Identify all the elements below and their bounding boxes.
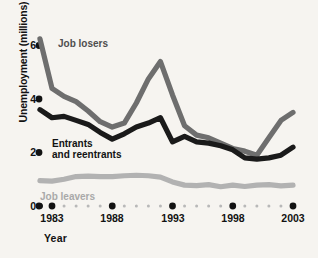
x-axis-minor-tick-dot: [255, 205, 258, 208]
y-tick-label-0: 0: [22, 200, 36, 212]
series-label-job-losers: Job losers: [58, 38, 108, 49]
y-axis-tick-dot: [36, 96, 43, 103]
x-axis-minor-tick-dot: [135, 205, 138, 208]
x-tick-label-1988: 1988: [95, 212, 129, 224]
y-tick-label-2: 2: [22, 146, 36, 158]
x-axis-minor-tick-dot: [63, 205, 66, 208]
x-axis-minor-tick-dot: [147, 205, 150, 208]
x-axis-tick-dots: [37, 203, 296, 210]
x-axis-minor-tick-dot: [75, 205, 78, 208]
x-axis-minor-tick-dot: [123, 205, 126, 208]
x-axis-minor-tick-dot: [87, 205, 90, 208]
x-axis-major-tick-dot: [109, 203, 116, 210]
series-label-entrants-line-1: Entrants: [52, 138, 121, 149]
series-label-job-leavers: Job leavers: [40, 191, 95, 202]
x-tick-label-1983: 1983: [35, 212, 69, 224]
x-axis-major-tick-dot: [49, 203, 56, 210]
y-axis-tick-dot: [36, 203, 43, 210]
unemployment-line-chart: 6 4 2 0 1983 1988 1993 1998 2003 Unemplo…: [0, 0, 318, 258]
series-label-entrants-and-reentrants: Entrantsand reentrants: [52, 138, 121, 160]
x-axis-major-tick-dot: [229, 203, 236, 210]
x-tick-label-2003: 2003: [276, 212, 310, 224]
x-axis-minor-tick-dot: [159, 205, 162, 208]
series-label-entrants-line-2: and reentrants: [52, 149, 121, 160]
x-axis-minor-tick-dot: [183, 205, 186, 208]
x-axis-minor-tick-dot: [207, 205, 210, 208]
x-axis-minor-tick-dot: [267, 205, 270, 208]
x-axis-minor-tick-dot: [279, 205, 282, 208]
x-axis-minor-tick-dot: [243, 205, 246, 208]
x-axis-minor-tick-dot: [195, 205, 198, 208]
x-axis-minor-tick-dot: [99, 205, 102, 208]
x-tick-label-1998: 1998: [216, 212, 250, 224]
y-axis-title: Unemployment (millions): [17, 0, 29, 137]
x-axis-minor-tick-dot: [219, 205, 222, 208]
series-line-job-leavers: [40, 175, 293, 187]
x-axis-major-tick-dot: [290, 203, 297, 210]
x-tick-label-1993: 1993: [156, 212, 190, 224]
x-axis-title: Year: [44, 232, 67, 244]
y-axis-tick-dots: [36, 42, 43, 209]
x-axis-major-tick-dot: [169, 203, 176, 210]
y-axis-tick-dot: [36, 149, 43, 156]
